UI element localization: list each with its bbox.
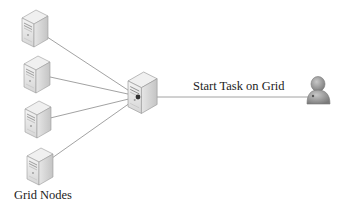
server-icon-grid-node-3 [25,101,51,138]
server-icon-grid-node-4 [27,148,53,185]
server-icon-grid-node-2 [24,56,50,93]
grid-nodes-label: Grid Nodes [14,188,72,203]
server-icon-grid-node-1 [22,10,48,47]
server-icon-central [128,72,157,113]
edge-to-grid-node-1 [38,31,137,96]
user-icon [307,77,330,105]
edge-to-grid-node-2 [41,75,137,96]
hub-point [136,95,141,100]
grid-diagram [0,0,340,208]
connections [38,31,312,163]
start-task-label: Start Task on Grid [193,79,285,94]
